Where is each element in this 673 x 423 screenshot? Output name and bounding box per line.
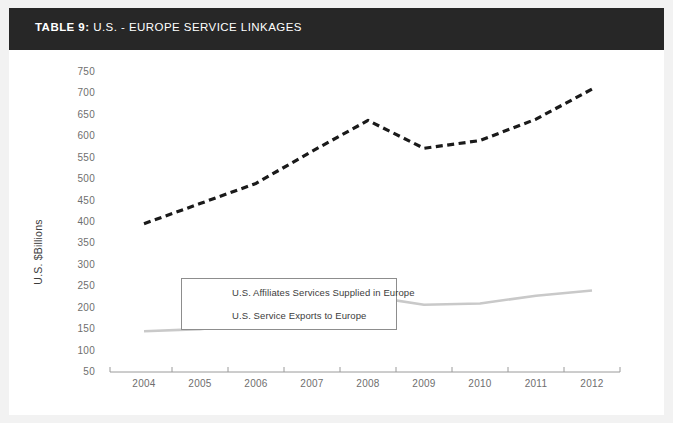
affiliates-line <box>144 89 592 224</box>
legend-item-exports: U.S. Service Exports to Europe <box>182 307 396 327</box>
chart-page: TABLE 9: U.S. - EUROPE SERVICE LINKAGES … <box>0 0 673 423</box>
title-rest: U.S. - EUROPE SERVICE LINKAGES <box>90 21 303 33</box>
title-prefix: TABLE 9: <box>35 21 90 33</box>
legend-label-affiliates: U.S. Affiliates Services Supplied in Eur… <box>232 287 415 298</box>
axis-lines <box>110 367 620 372</box>
plot-area: U.S. $Billions 7507006506005505004504003… <box>0 50 673 423</box>
page-title: TABLE 9: U.S. - EUROPE SERVICE LINKAGES <box>35 21 302 33</box>
chart-canvas <box>0 50 673 423</box>
legend-label-exports: U.S. Service Exports to Europe <box>232 310 366 321</box>
chart-legend: U.S. Affiliates Services Supplied in Eur… <box>181 278 397 330</box>
legend-item-affiliates: U.S. Affiliates Services Supplied in Eur… <box>182 284 396 304</box>
title-bar: TABLE 9: U.S. - EUROPE SERVICE LINKAGES <box>9 8 664 50</box>
